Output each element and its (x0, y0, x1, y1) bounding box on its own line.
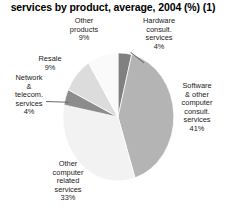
pie-label-resale: Resale 9% (30, 55, 70, 72)
pie-label-hardware-consult-services: Hardware consult. services 4% (131, 17, 187, 51)
pie-chart-figure: services by product, average, 2004 (%) (… (0, 0, 226, 218)
pie-label-software-other-computer-consult-services: Software & other computer consult. servi… (170, 82, 224, 134)
pie-label-other-computer-related-services: Other computer related services 33% (37, 160, 99, 203)
pie-label-network-telecom-services: Network & telecom. services 4% (2, 74, 56, 117)
chart-title: services by product, average, 2004 (%) (… (0, 1, 226, 13)
pie-label-other-products: Other products 9% (58, 17, 110, 43)
